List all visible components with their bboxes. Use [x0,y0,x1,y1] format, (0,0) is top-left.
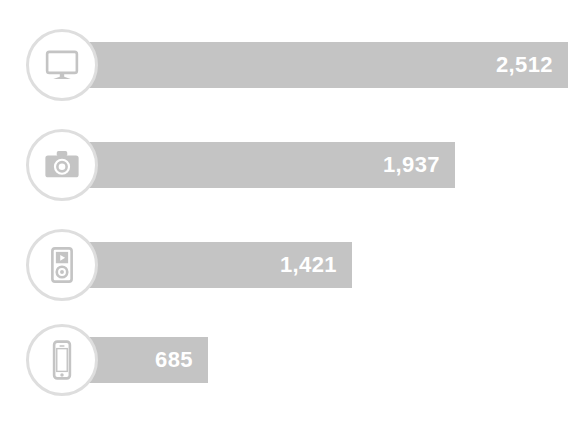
mp3-player-icon [41,244,83,286]
bar-value-label: 685 [155,349,193,371]
bar-track[interactable]: 1,421 [88,242,352,288]
bar-track[interactable]: 2,512 [88,42,568,88]
device-usage-bar-chart: 2,512 1,937 1,421 [0,0,583,423]
bar-value-label: 1,937 [383,154,440,176]
bar-track[interactable]: 685 [88,337,208,383]
category-medallion[interactable] [26,324,98,396]
bar-value-label: 2,512 [496,54,553,76]
smartphone-icon [41,339,83,381]
desktop-monitor-icon [41,44,83,86]
category-medallion[interactable] [26,29,98,101]
category-medallion[interactable] [26,229,98,301]
camera-icon [41,144,83,186]
category-medallion[interactable] [26,129,98,201]
bar-track[interactable]: 1,937 [88,142,455,188]
bar-value-label: 1,421 [280,254,337,276]
